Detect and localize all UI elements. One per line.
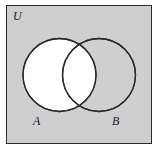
universal-set-rectangle [6, 5, 152, 144]
set-b-label: B [112, 115, 120, 127]
set-a-label: A [33, 115, 41, 127]
venn-diagram-figure: U A B [0, 0, 159, 151]
universe-label: U [13, 10, 22, 22]
